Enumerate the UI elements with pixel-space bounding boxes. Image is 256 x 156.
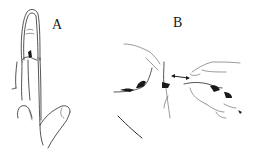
panel-b: B [100,0,256,156]
panel-a: A [0,0,100,156]
panel-label-a: A [52,18,62,32]
panel-label-b: B [173,16,182,30]
finger-splint-drawing [0,0,100,156]
